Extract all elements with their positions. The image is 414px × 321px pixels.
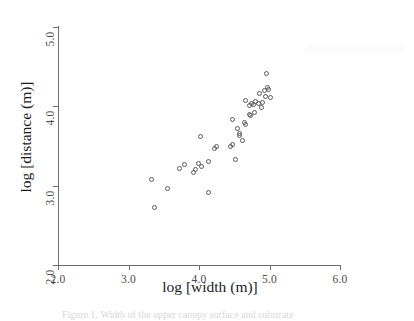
y-tick-label: 5.0: [44, 26, 56, 52]
x-tick: [270, 265, 271, 270]
data-point: [259, 105, 264, 110]
data-point: [257, 91, 262, 96]
x-tick-label: 2.0: [43, 273, 73, 285]
data-point: [252, 110, 257, 115]
y-tick-label: 4.0: [44, 105, 56, 131]
data-point: [198, 134, 203, 139]
data-point: [264, 71, 269, 76]
data-point: [240, 138, 245, 143]
data-point: [233, 157, 238, 162]
data-point: [237, 131, 242, 136]
x-tick: [340, 265, 341, 270]
x-tick: [58, 265, 59, 270]
x-tick: [129, 265, 130, 270]
data-point: [165, 186, 170, 191]
data-point: [206, 159, 211, 164]
figure-caption: Figure 1. Width of the upper canopy surf…: [62, 309, 392, 321]
data-point: [182, 162, 187, 167]
data-point: [268, 95, 273, 100]
data-point: [206, 190, 211, 195]
data-point: [230, 142, 235, 147]
data-point: [266, 87, 271, 92]
plot-area: [58, 27, 340, 265]
data-point: [199, 164, 204, 169]
data-point: [230, 117, 235, 122]
data-point: [177, 166, 182, 171]
data-point: [149, 177, 154, 182]
data-point: [243, 122, 248, 127]
data-point: [152, 205, 157, 210]
y-tick-label: 3.0: [44, 185, 56, 211]
x-axis-title: log [width (m)]: [110, 278, 310, 296]
data-point: [193, 167, 198, 172]
y-axis-title: log [distance (m)]: [17, 27, 35, 247]
x-tick-label: 6.0: [325, 273, 355, 285]
x-tick: [199, 265, 200, 270]
data-point: [260, 100, 265, 105]
data-point: [214, 144, 219, 149]
scatter-plot-figure: 2.03.04.05.02.03.04.05.06.0 log [distanc…: [0, 0, 414, 321]
